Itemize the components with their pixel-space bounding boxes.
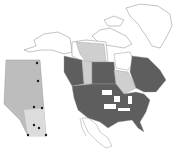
arctic-islands-2: [104, 16, 124, 26]
state-absent-2: [104, 104, 116, 109]
site-marker: [33, 124, 35, 126]
state-absent-3: [114, 96, 120, 102]
alaska: [24, 32, 72, 54]
greenland: [126, 4, 172, 48]
north-america-map: [0, 0, 181, 151]
site-marker: [38, 127, 40, 129]
alberta-partial: [82, 60, 92, 84]
site-marker: [27, 134, 29, 136]
state-absent-1: [102, 90, 112, 95]
quebec-atlantic: [130, 56, 166, 92]
site-marker: [37, 80, 39, 82]
state-absent-5: [118, 108, 130, 111]
prairies: [92, 62, 116, 84]
alberta-inset: [4, 60, 47, 136]
site-marker: [45, 134, 47, 136]
site-marker: [36, 62, 38, 64]
state-absent-4: [128, 96, 132, 104]
site-marker: [41, 107, 43, 109]
british-columbia: [64, 56, 84, 86]
site-marker: [33, 106, 35, 108]
